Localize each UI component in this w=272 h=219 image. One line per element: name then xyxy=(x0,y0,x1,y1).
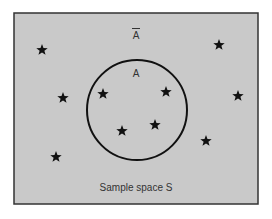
sample-space-rect xyxy=(14,13,258,204)
event-a-label: A xyxy=(133,68,140,79)
sample-space-label: Sample space S xyxy=(100,182,173,193)
complement-label: A xyxy=(133,30,140,41)
venn-diagram: A A Sample space S xyxy=(0,0,272,219)
